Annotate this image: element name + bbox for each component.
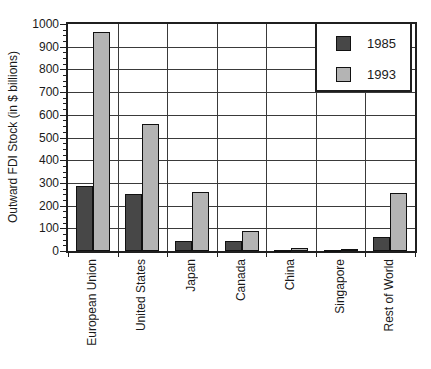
bar-1993-japan bbox=[192, 192, 209, 251]
x-category-label-canada: Canada bbox=[234, 259, 248, 301]
y-minor-tick bbox=[63, 194, 66, 195]
bar-1993-china bbox=[291, 248, 308, 251]
x-axis-tick bbox=[266, 253, 267, 257]
x-axis-tick bbox=[217, 253, 218, 257]
bar-1985-rest-of-world bbox=[373, 237, 390, 251]
y-major-tick bbox=[60, 69, 66, 70]
h-gridline bbox=[68, 228, 415, 229]
y-tick-label: 600 bbox=[19, 108, 59, 122]
y-major-tick bbox=[60, 92, 66, 93]
y-major-tick bbox=[60, 47, 66, 48]
x-category-label-china: China bbox=[283, 259, 297, 290]
y-minor-tick bbox=[63, 155, 66, 156]
bar-1985-china bbox=[274, 250, 291, 252]
bar-1985-european-union bbox=[76, 186, 93, 251]
h-gridline bbox=[68, 160, 415, 161]
x-axis-tick bbox=[68, 253, 69, 257]
y-minor-tick bbox=[63, 217, 66, 218]
y-tick-label: 300 bbox=[19, 176, 59, 190]
legend-label-1985: 1985 bbox=[367, 36, 396, 51]
y-tick-label: 900 bbox=[19, 40, 59, 54]
y-minor-tick bbox=[63, 149, 66, 150]
legend-item-1985: 1985 bbox=[336, 35, 410, 51]
legend-swatch-1993 bbox=[336, 67, 351, 82]
y-minor-tick bbox=[63, 189, 66, 190]
y-minor-tick bbox=[63, 200, 66, 201]
legend-label-1993: 1993 bbox=[367, 67, 396, 82]
y-minor-tick bbox=[63, 64, 66, 65]
y-minor-tick bbox=[63, 35, 66, 36]
h-gridline bbox=[68, 115, 415, 116]
bar-1993-canada bbox=[242, 231, 259, 251]
h-gridline bbox=[68, 206, 415, 207]
outward-fdi-bar-chart: Outward FDI Stock (in $ billions) 010020… bbox=[0, 0, 431, 369]
y-tick-label: 400 bbox=[19, 153, 59, 167]
x-axis-tick bbox=[167, 253, 168, 257]
y-minor-tick bbox=[63, 58, 66, 59]
y-minor-tick bbox=[63, 245, 66, 246]
y-major-tick bbox=[60, 251, 66, 252]
y-minor-tick bbox=[63, 75, 66, 76]
y-minor-tick bbox=[63, 143, 66, 144]
y-minor-tick bbox=[63, 132, 66, 133]
x-axis-tick bbox=[365, 253, 366, 257]
bar-1985-canada bbox=[225, 241, 242, 251]
y-minor-tick bbox=[63, 81, 66, 82]
y-minor-tick bbox=[63, 126, 66, 127]
y-major-tick bbox=[60, 228, 66, 229]
y-major-tick bbox=[60, 115, 66, 116]
bar-1985-japan bbox=[175, 241, 192, 251]
y-minor-tick bbox=[63, 120, 66, 121]
bar-1993-singapore bbox=[341, 249, 358, 251]
y-tick-label: 500 bbox=[19, 131, 59, 145]
v-gridline bbox=[118, 24, 119, 251]
x-axis-tick bbox=[316, 253, 317, 257]
y-minor-tick bbox=[63, 166, 66, 167]
y-major-tick bbox=[60, 206, 66, 207]
y-tick-label: 700 bbox=[19, 85, 59, 99]
bar-1985-united-states bbox=[125, 194, 142, 251]
y-major-tick bbox=[60, 138, 66, 139]
x-category-label-european-union: European Union bbox=[85, 259, 99, 346]
y-minor-tick bbox=[63, 177, 66, 178]
y-tick-label: 100 bbox=[19, 221, 59, 235]
y-minor-tick bbox=[63, 41, 66, 42]
y-minor-tick bbox=[63, 103, 66, 104]
v-gridline bbox=[217, 24, 218, 251]
x-category-label-rest-of-world: Rest of World bbox=[382, 259, 396, 331]
y-tick-label: 0 bbox=[19, 244, 59, 258]
bar-1985-singapore bbox=[324, 250, 341, 252]
y-minor-tick bbox=[63, 240, 66, 241]
legend-swatch-1985 bbox=[336, 36, 351, 51]
v-gridline bbox=[167, 24, 168, 251]
y-minor-tick bbox=[63, 109, 66, 110]
h-gridline bbox=[68, 138, 415, 139]
y-minor-tick bbox=[63, 223, 66, 224]
bar-1993-rest-of-world bbox=[390, 193, 407, 251]
v-gridline bbox=[266, 24, 267, 251]
y-minor-tick bbox=[63, 211, 66, 212]
y-major-tick bbox=[60, 24, 66, 25]
y-minor-tick bbox=[63, 98, 66, 99]
y-minor-tick bbox=[63, 234, 66, 235]
y-major-tick bbox=[60, 160, 66, 161]
y-minor-tick bbox=[63, 30, 66, 31]
bar-1993-united-states bbox=[142, 124, 159, 251]
h-gridline bbox=[68, 183, 415, 184]
x-category-label-united-states: United States bbox=[134, 259, 148, 331]
y-axis-title: Outward FDI Stock (in $ billions) bbox=[6, 51, 20, 223]
y-minor-tick bbox=[63, 52, 66, 53]
x-axis-tick bbox=[118, 253, 119, 257]
legend-item-1993: 1993 bbox=[336, 66, 410, 82]
y-major-tick bbox=[60, 183, 66, 184]
bar-1993-european-union bbox=[93, 32, 110, 251]
y-minor-tick bbox=[63, 86, 66, 87]
y-minor-tick bbox=[63, 172, 66, 173]
h-gridline bbox=[68, 92, 415, 93]
y-tick-label: 800 bbox=[19, 62, 59, 76]
x-axis-tick bbox=[415, 253, 416, 257]
y-tick-label: 200 bbox=[19, 199, 59, 213]
legend: 1985 1993 bbox=[315, 22, 412, 92]
y-tick-label: 1000 bbox=[19, 17, 59, 31]
x-category-label-singapore: Singapore bbox=[333, 259, 347, 314]
